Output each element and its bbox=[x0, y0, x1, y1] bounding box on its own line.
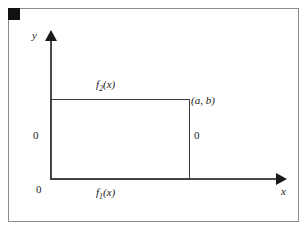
y-axis-arrow-icon bbox=[45, 30, 57, 41]
upper-boundary-label: f2(x) bbox=[96, 78, 115, 93]
region-rectangle bbox=[50, 99, 190, 180]
corner-point-label: (a, b) bbox=[191, 94, 215, 106]
zero-label-origin: 0 bbox=[36, 183, 42, 195]
corner-square-marker bbox=[8, 8, 20, 20]
zero-label-left: 0 bbox=[33, 129, 39, 141]
figure-page: y x f2(x) f1(x) (a, b) 0 0 0 bbox=[0, 0, 307, 230]
x-axis-label: x bbox=[281, 185, 286, 197]
upper-boundary-argument: (x) bbox=[103, 78, 115, 90]
zero-label-right: 0 bbox=[194, 129, 200, 141]
lower-boundary-label: f1(x) bbox=[96, 186, 115, 201]
lower-boundary-argument: (x) bbox=[103, 186, 115, 198]
y-axis-label: y bbox=[32, 29, 37, 41]
x-axis-arrow-icon bbox=[276, 173, 287, 185]
